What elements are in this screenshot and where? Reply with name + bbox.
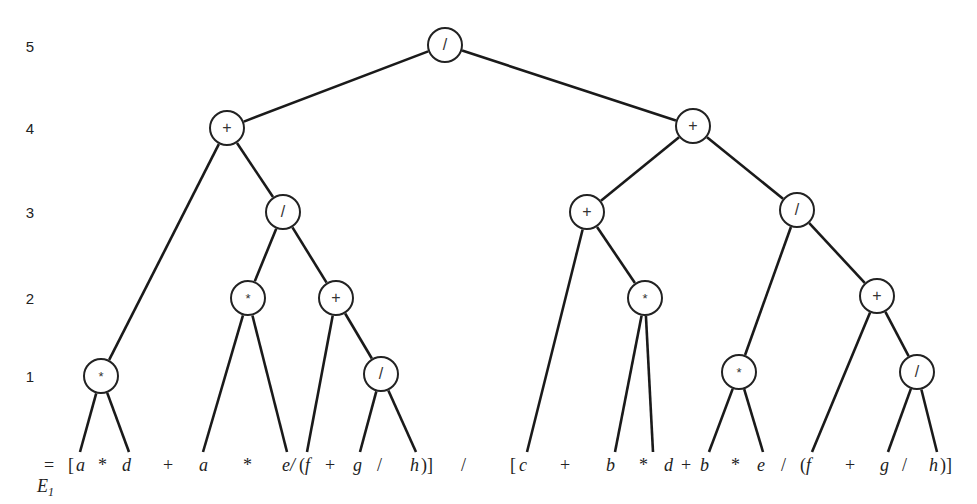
tree-edge	[292, 227, 326, 282]
tree-edge	[885, 312, 908, 356]
tree-node-multiply: *	[627, 280, 663, 316]
tree-edge	[921, 389, 937, 452]
expression-operator: +	[845, 455, 855, 476]
expression-variable: b	[700, 455, 709, 476]
tree-edge	[237, 143, 273, 197]
tree-edge	[527, 229, 583, 452]
tree-edge	[80, 393, 96, 452]
expression-variable: b	[606, 455, 615, 476]
tree-node-divide: /	[265, 194, 301, 230]
tree-node-multiply: *	[83, 358, 119, 394]
expression-variable: f	[305, 455, 310, 476]
tree-edge	[709, 389, 733, 452]
expression-variable: h	[929, 455, 938, 476]
tree-edge	[255, 229, 276, 282]
expression-operator: )]	[940, 455, 952, 476]
tree-node-divide: /	[363, 356, 399, 392]
tree-edge	[888, 389, 911, 452]
tree-node-plus: +	[675, 108, 711, 144]
tree-edges	[0, 0, 977, 504]
level-label-4: 4	[20, 120, 40, 137]
tree-node-plus: +	[569, 194, 605, 230]
expression-tree-diagram: 5 4 3 2 1 /++/+/*+*+*/*/ E1 = [a*d+a*e/(…	[0, 0, 977, 504]
expression-operator: +	[325, 455, 335, 476]
expression-variable: a	[199, 455, 208, 476]
tree-edge	[615, 316, 642, 452]
expression-variable: g	[880, 455, 889, 476]
tree-node-divide: /	[899, 354, 935, 390]
level-label-5: 5	[20, 38, 40, 55]
tree-edge	[646, 316, 653, 452]
expression-operator: /	[902, 455, 907, 476]
expression-operator: *	[98, 455, 107, 476]
level-label-3: 3	[20, 204, 40, 221]
tree-node-plus: +	[318, 280, 354, 316]
tree-edge	[597, 227, 635, 283]
expression-operator: +	[560, 455, 570, 476]
tree-edge	[244, 51, 428, 121]
tree-edge	[744, 389, 763, 452]
expression-variable: c	[519, 455, 527, 476]
expression-variable: d	[122, 455, 131, 476]
expression-operator: +	[681, 455, 691, 476]
tree-node-multiply: *	[721, 354, 757, 390]
expression-operator: /	[781, 455, 786, 476]
tree-edge	[203, 315, 243, 452]
tree-edge	[462, 51, 676, 121]
expression-variable: d	[664, 455, 673, 476]
expression-variable: h	[410, 455, 419, 476]
equals-sign: =	[44, 455, 54, 476]
tree-node-multiply: *	[230, 280, 266, 316]
level-label-2: 2	[20, 290, 40, 307]
expression-variable: e/	[282, 455, 295, 476]
tree-edge	[107, 393, 129, 452]
tree-node-plus: +	[859, 278, 895, 314]
tree-edge	[707, 137, 783, 198]
expression-operator: *	[731, 455, 740, 476]
expression-variable: g	[353, 455, 362, 476]
expression-operator: [	[510, 455, 516, 476]
tree-node-divide: /	[427, 27, 463, 63]
expression-operator: [	[68, 455, 74, 476]
expression-subscript: 1	[48, 485, 54, 499]
tree-edge	[809, 223, 864, 283]
expression-operator: *	[243, 455, 252, 476]
level-label-1: 1	[20, 368, 40, 385]
expression-operator: +	[163, 455, 173, 476]
tree-node-plus: +	[209, 110, 245, 146]
tree-node-divide: /	[779, 192, 815, 228]
tree-edge	[345, 313, 372, 358]
tree-edge	[601, 137, 679, 200]
tree-edge	[812, 313, 870, 452]
tree-edge	[252, 315, 287, 452]
tree-edge	[307, 316, 333, 452]
expression-operator: /	[377, 455, 382, 476]
tree-edge	[388, 390, 416, 452]
expression-operator: /	[461, 455, 466, 476]
tree-edge	[360, 391, 376, 452]
tree-edge	[745, 227, 791, 355]
expression-variable: a	[76, 455, 85, 476]
expression-variable: e	[757, 455, 765, 476]
expression-operator: *	[639, 455, 648, 476]
tree-edge	[109, 144, 219, 360]
expression-operator: )]	[421, 455, 433, 476]
expression-variable: f	[806, 455, 811, 476]
expression-name: E	[37, 476, 48, 496]
